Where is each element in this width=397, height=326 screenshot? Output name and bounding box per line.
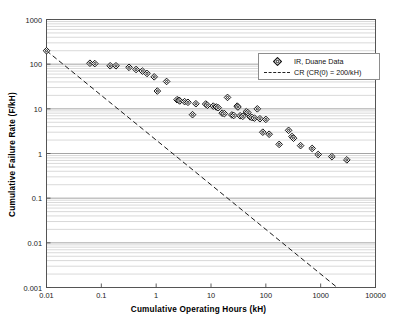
y-tick-label: 0.1 — [8, 194, 42, 203]
chart-legend: IR, Duane Data CR (CR(0) = 200/kH) — [258, 53, 380, 80]
data-point — [257, 115, 264, 122]
data-point — [297, 142, 304, 149]
data-point — [189, 111, 196, 118]
data-point — [285, 127, 292, 134]
legend-label-ir-duane-data: IR, Duane Data — [292, 57, 344, 66]
y-tick-label: 10 — [8, 105, 42, 114]
data-point — [259, 129, 266, 136]
data-point — [315, 151, 322, 158]
y-tick-label: 100 — [8, 60, 42, 69]
data-point — [163, 78, 170, 85]
x-tick-label: 1 — [131, 291, 181, 300]
data-point — [329, 153, 336, 160]
x-tick-label: 0.1 — [76, 291, 126, 300]
cr-trend-line — [47, 51, 338, 288]
x-tick-label: 1000 — [296, 291, 346, 300]
data-point — [151, 74, 158, 81]
legend-item-cr: CR (CR(0) = 200/kH) — [262, 67, 376, 78]
data-point — [113, 62, 120, 69]
y-tick-label: 1 — [8, 150, 42, 159]
diamond-marker-icon — [262, 57, 292, 66]
dashed-line-icon — [262, 72, 292, 74]
data-point — [276, 141, 283, 148]
data-point — [193, 100, 200, 107]
data-point — [133, 66, 140, 73]
x-axis-title: Cumulative Operating Hours (kH) — [0, 305, 397, 314]
y-tick-label: 0.01 — [8, 239, 42, 248]
legend-label-cr: CR (CR(0) = 200/kH) — [292, 68, 361, 77]
duane-plot-figure: IR, Duane Data CR (CR(0) = 200/kH) Cumul… — [0, 0, 397, 326]
x-tick-label: 100 — [241, 291, 291, 300]
data-point — [263, 116, 270, 123]
data-point — [126, 64, 133, 71]
chart-canvas — [0, 0, 397, 326]
y-tick-label: 0.001 — [8, 284, 42, 293]
x-axis-ticks — [47, 284, 376, 288]
x-tick-label: 10 — [186, 291, 236, 300]
legend-item-ir-duane-data: IR, Duane Data — [262, 56, 376, 67]
data-point — [309, 145, 316, 152]
data-point — [154, 88, 161, 95]
x-tick-label: 10000 — [351, 291, 397, 300]
y-tick-label: 1000 — [8, 16, 42, 25]
